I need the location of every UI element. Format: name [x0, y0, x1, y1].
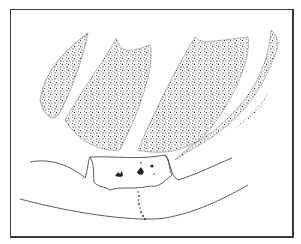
lower-arc — [20, 185, 248, 219]
stippled-band-3 — [138, 37, 248, 152]
anatomical-illustration — [0, 0, 301, 244]
left-curve — [30, 157, 90, 178]
right-curve — [165, 155, 232, 180]
dotted-trail — [137, 191, 146, 220]
central-block — [90, 155, 172, 190]
